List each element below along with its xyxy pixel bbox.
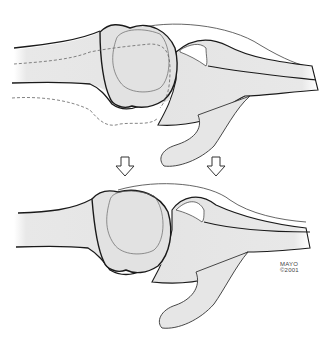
arrow-left xyxy=(116,157,134,176)
bone-head xyxy=(92,190,171,272)
bone-head xyxy=(100,25,177,108)
joint-diagram xyxy=(0,0,332,342)
arrow-right xyxy=(207,157,225,176)
credit-line-2: ©2001 xyxy=(280,267,299,273)
panel-top xyxy=(12,24,318,166)
panel-bottom xyxy=(14,184,310,329)
copyright-credit: MAYO ©2001 xyxy=(280,261,299,273)
